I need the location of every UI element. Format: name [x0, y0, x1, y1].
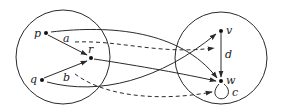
edge-label-a: a — [63, 32, 70, 45]
node-v — [219, 29, 223, 33]
node-p — [44, 31, 48, 35]
node-r — [89, 56, 93, 60]
edge-a-dashed — [75, 42, 214, 50]
node-label-r: r — [88, 43, 94, 56]
node-label-q: q — [30, 73, 37, 86]
node-w — [219, 79, 223, 83]
node-label-v: v — [226, 24, 233, 37]
edge-label-c: c — [232, 86, 238, 99]
edge-q-v — [47, 34, 216, 87]
edge-label-d: d — [225, 48, 232, 61]
diagram: p q r v w a b c d — [0, 0, 281, 108]
edge-r-w — [94, 59, 216, 81]
node-label-p: p — [34, 27, 41, 40]
edge-label-b: b — [63, 71, 70, 84]
left-region-circle — [16, 10, 110, 104]
node-q — [40, 78, 44, 82]
edge-p-w — [51, 29, 217, 78]
